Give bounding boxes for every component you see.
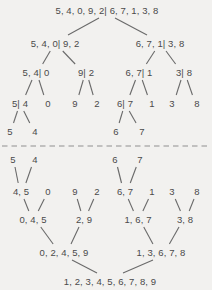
split-node-s3a: 5| 4 xyxy=(12,98,28,109)
merge-sort-diagram: 5, 4, 0, 9, 2| 6, 7, 1, 3, 85, 4, 0| 9, … xyxy=(0,0,212,290)
split-node-s0: 5, 4, 0, 9, 2| 6, 7, 1, 3, 8 xyxy=(56,5,159,16)
split-node-s2c: 6, 7| 1 xyxy=(126,67,153,78)
merge-node-m2c: 1, 6, 7 xyxy=(124,214,151,225)
split-node-s4b: 4 xyxy=(32,126,37,137)
merge-node-m0c: 6 xyxy=(112,154,117,165)
split-node-s3f: 1 xyxy=(149,98,154,109)
split-node-s3e: 6| 7 xyxy=(117,98,133,109)
merge-node-m1c: 9 xyxy=(72,186,77,197)
merge-node-m3b: 1, 3, 6, 7, 8 xyxy=(137,247,186,258)
merge-node-m2d: 3, 8 xyxy=(177,214,193,225)
merge-node-m1g: 3 xyxy=(169,186,174,197)
merge-node-m2a: 0, 4, 5 xyxy=(19,214,46,225)
merge-node-m1f: 1 xyxy=(149,186,154,197)
merge-node-m2b: 2, 9 xyxy=(76,214,92,225)
split-node-s2b: 9| 2 xyxy=(78,67,94,78)
split-node-s3g: 3 xyxy=(169,98,174,109)
merge-node-m1b: 0 xyxy=(45,186,50,197)
merge-node-m3a: 0, 2, 4, 5, 9 xyxy=(40,247,89,258)
split-node-s2d: 3| 8 xyxy=(176,67,192,78)
merge-node-m4a: 1, 2, 3, 4, 5, 6, 7, 8, 9 xyxy=(64,276,156,287)
split-node-s1b: 6, 7, 1| 3, 8 xyxy=(136,38,185,49)
split-node-s2a: 5, 4| 0 xyxy=(23,67,50,78)
nodes-layer: 5, 4, 0, 9, 2| 6, 7, 1, 3, 85, 4, 0| 9, … xyxy=(0,0,212,290)
split-node-s3h: 8 xyxy=(194,98,199,109)
split-node-s4a: 5 xyxy=(7,126,12,137)
merge-node-m0b: 4 xyxy=(32,154,37,165)
merge-node-m1d: 2 xyxy=(94,186,99,197)
split-node-s4d: 7 xyxy=(139,126,144,137)
merge-node-m1h: 8 xyxy=(194,186,199,197)
merge-node-m1e: 6, 7 xyxy=(117,186,133,197)
split-node-s3b: 0 xyxy=(45,98,50,109)
merge-node-m1a: 4, 5 xyxy=(13,186,29,197)
split-node-s1a: 5, 4, 0| 9, 2 xyxy=(31,38,80,49)
split-node-s4c: 6 xyxy=(113,126,118,137)
merge-node-m0a: 5 xyxy=(10,154,15,165)
merge-node-m0d: 7 xyxy=(137,154,142,165)
split-node-s3d: 2 xyxy=(94,98,99,109)
split-node-s3c: 9 xyxy=(72,98,77,109)
